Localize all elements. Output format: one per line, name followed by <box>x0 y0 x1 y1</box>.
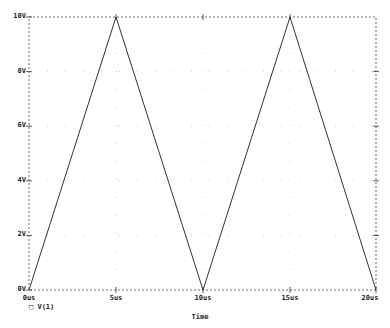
plot-canvas <box>0 0 390 328</box>
y-tick-label: 0V <box>0 285 26 293</box>
series-v1-line <box>29 17 376 290</box>
grid <box>29 17 376 290</box>
legend: □ V(1) <box>29 303 54 311</box>
x-tick-label: 10us <box>195 294 212 302</box>
y-tick-label: 2V <box>0 230 26 238</box>
x-tick-label: 5us <box>110 294 123 302</box>
legend-marker-icon: □ <box>29 303 33 311</box>
plot-frame <box>29 17 376 290</box>
y-tick-label: 6V <box>0 121 26 129</box>
y-tick-label: 4V <box>0 176 26 184</box>
y-tick-label: 8V <box>0 67 26 75</box>
x-axis-label: Time <box>192 313 209 321</box>
tick-marks <box>26 14 379 293</box>
x-tick-label: 0us <box>23 294 36 302</box>
x-tick-label: 20us <box>362 294 379 302</box>
y-tick-label: 10V <box>0 12 26 20</box>
x-tick-label: 15us <box>282 294 299 302</box>
legend-label: V(1) <box>37 303 54 311</box>
